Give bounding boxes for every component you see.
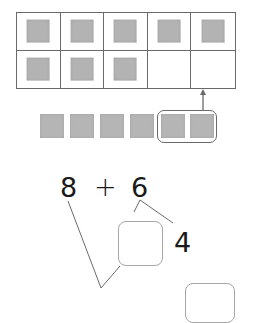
bond-line xyxy=(68,201,101,288)
split-answer-box[interactable] xyxy=(118,221,163,266)
split-part: 4 xyxy=(174,229,191,256)
addend-right: 6 xyxy=(131,174,148,201)
bond-line xyxy=(140,200,173,223)
result-answer-box[interactable] xyxy=(185,283,235,323)
arrow-up-icon xyxy=(200,89,206,95)
bond-line xyxy=(101,266,120,288)
plus-sign: + xyxy=(94,173,117,200)
addend-left: 8 xyxy=(60,174,77,201)
